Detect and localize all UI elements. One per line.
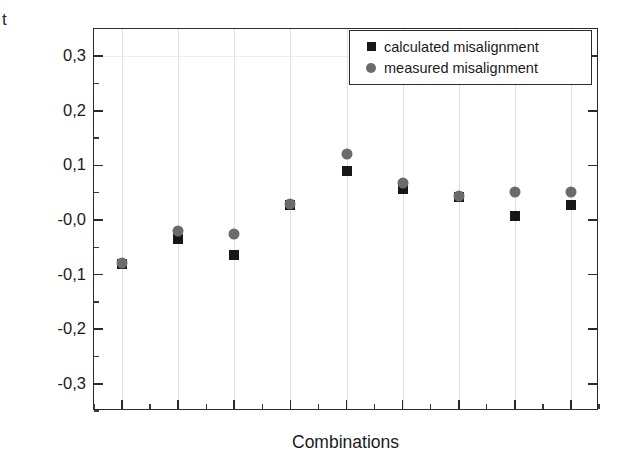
y-tick-major-left — [94, 110, 103, 112]
x-tick-major — [514, 400, 516, 409]
y-tick-label: -0,0 — [40, 210, 86, 229]
y-tick-major-left — [94, 55, 103, 57]
vertical-gridline — [571, 29, 572, 409]
y-tick-minor — [94, 192, 99, 193]
y-tick-major-right — [588, 274, 597, 276]
y-tick-major-left — [94, 274, 103, 276]
x-tick-minor — [206, 404, 207, 409]
data-point-measured — [397, 177, 408, 188]
vertical-gridline — [290, 29, 291, 409]
data-point-measured — [117, 258, 128, 269]
y-tick-major-right — [588, 165, 597, 167]
y-tick-major-right — [588, 328, 597, 330]
square-marker-icon — [358, 42, 384, 51]
x-tick-major — [177, 400, 179, 409]
y-tick-minor — [94, 410, 99, 411]
vertical-gridline — [347, 29, 348, 409]
data-point-calculated — [229, 250, 239, 260]
data-point-calculated — [510, 211, 520, 221]
vertical-gridline — [234, 29, 235, 409]
x-tick-minor — [318, 404, 319, 409]
data-point-measured — [341, 148, 352, 159]
y-tick-major-left — [94, 383, 103, 385]
data-point-measured — [229, 229, 240, 240]
x-tick-minor — [262, 404, 263, 409]
x-tick-minor — [374, 404, 375, 409]
y-tick-minor — [94, 83, 99, 84]
legend-label-measured: measured misalignment — [384, 60, 538, 76]
circle-marker-icon — [358, 63, 384, 73]
y-tick-major-left — [94, 328, 103, 330]
data-point-calculated — [342, 166, 352, 176]
y-tick-minor — [94, 301, 99, 302]
legend-item-calculated: calculated misalignment — [358, 36, 583, 57]
y-tick-major-left — [94, 165, 103, 167]
vertical-gridline — [178, 29, 179, 409]
data-point-measured — [453, 190, 464, 201]
y-tick-label: -0,3 — [40, 373, 86, 392]
y-tick-major-right — [588, 383, 597, 385]
vertical-gridline — [459, 29, 460, 409]
x-tick-minor — [542, 404, 543, 409]
y-tick-major-left — [94, 219, 103, 221]
x-tick-major — [233, 400, 235, 409]
x-tick-major — [570, 400, 572, 409]
x-tick-major — [290, 400, 292, 409]
data-point-measured — [173, 226, 184, 237]
x-tick-minor — [486, 404, 487, 409]
legend-item-measured: measured misalignment — [358, 57, 583, 78]
x-tick-major — [402, 400, 404, 409]
vertical-gridline — [403, 29, 404, 409]
data-point-calculated — [566, 200, 576, 210]
x-tick-major — [121, 400, 123, 409]
x-tick-minor — [93, 404, 94, 409]
data-point-measured — [285, 198, 296, 209]
y-tick-minor — [94, 137, 99, 138]
chart-figure: t Misalignment to center of the crystal … — [0, 0, 623, 472]
x-tick-minor — [598, 404, 599, 409]
y-tick-label: 0,3 — [40, 46, 86, 65]
plot-area: calculated misalignment measured misalig… — [93, 28, 598, 410]
clipped-glyph: t — [2, 10, 7, 30]
y-tick-label: -0,1 — [40, 264, 86, 283]
x-tick-minor — [149, 404, 150, 409]
y-tick-major-right — [588, 110, 597, 112]
y-tick-label: 0,1 — [40, 155, 86, 174]
legend: calculated misalignment measured misalig… — [349, 30, 592, 85]
x-axis-title: Combinations — [93, 432, 598, 453]
y-tick-minor — [94, 356, 99, 357]
legend-label-calculated: calculated misalignment — [384, 39, 539, 55]
y-tick-major-right — [588, 219, 597, 221]
y-tick-minor — [94, 247, 99, 248]
x-tick-major — [346, 400, 348, 409]
x-tick-minor — [430, 404, 431, 409]
data-point-measured — [565, 187, 576, 198]
y-tick-label: 0,2 — [40, 100, 86, 119]
data-point-measured — [509, 187, 520, 198]
x-tick-major — [458, 400, 460, 409]
y-axis-tick-labels: 0,30,20,1-0,0-0,1-0,2-0,3 — [36, 0, 86, 472]
vertical-gridline — [122, 29, 123, 409]
y-tick-label: -0,2 — [40, 319, 86, 338]
